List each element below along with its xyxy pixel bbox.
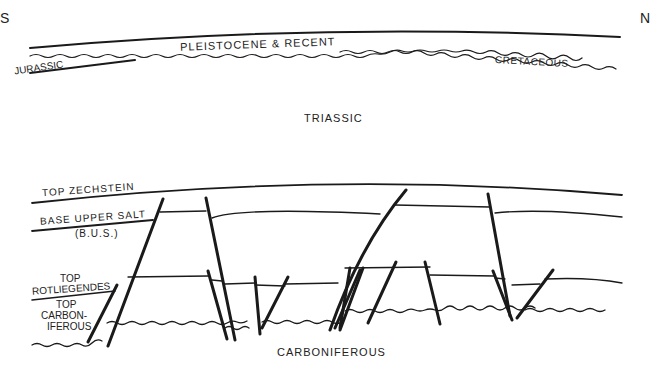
top-carboniferous-b2 <box>225 327 249 330</box>
top-carboniferous-b3 <box>262 321 342 324</box>
rotliegendes-b2 <box>212 280 222 281</box>
top-carboniferous-b1 <box>107 321 247 325</box>
bus-line-block4 <box>495 211 622 217</box>
label-bus: (B.U.S.) <box>75 228 119 239</box>
rotliegendes-b9 <box>512 284 540 285</box>
rotliegendes-b5 <box>285 283 338 284</box>
label-triassic: TRIASSIC <box>304 112 363 124</box>
rotliegendes-b3 <box>225 283 255 284</box>
direction-north: N <box>640 10 650 26</box>
rotliegendes-b10 <box>545 279 622 284</box>
label-top-carboniferous-2: CARBON- <box>41 310 87 321</box>
bus-line-block1 <box>160 211 206 212</box>
rotliegendes-b7 <box>430 275 495 276</box>
top-carboniferous-left <box>32 340 102 347</box>
label-carboniferous: CARBONIFEROUS <box>277 346 386 358</box>
label-top-carboniferous-1: TOP <box>56 299 76 310</box>
rotliegendes-b1 <box>128 276 208 277</box>
direction-south: S <box>0 10 9 26</box>
label-top-carboniferous-3: IFEROUS <box>47 321 91 332</box>
bus-line-block3 <box>395 205 490 207</box>
top-carboniferous-b5 <box>525 309 605 312</box>
rotliegendes-b4 <box>255 285 285 286</box>
bus-line-block2 <box>212 211 380 218</box>
